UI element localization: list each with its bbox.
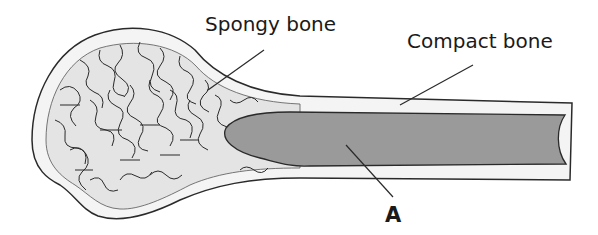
- spongy-bone-label: Spongy bone: [205, 12, 336, 36]
- compact-bone-label: Compact bone: [407, 29, 553, 53]
- marker-a-label: A: [385, 203, 401, 227]
- bone-diagram: Spongy bone Compact bone A: [0, 0, 598, 235]
- medullary-cavity: [225, 112, 566, 166]
